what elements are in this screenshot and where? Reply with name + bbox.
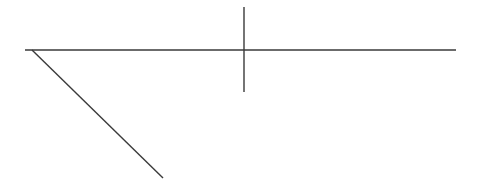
diagram-canvas xyxy=(0,0,486,188)
line-diagram xyxy=(0,0,486,188)
diagonal-line xyxy=(32,50,163,178)
